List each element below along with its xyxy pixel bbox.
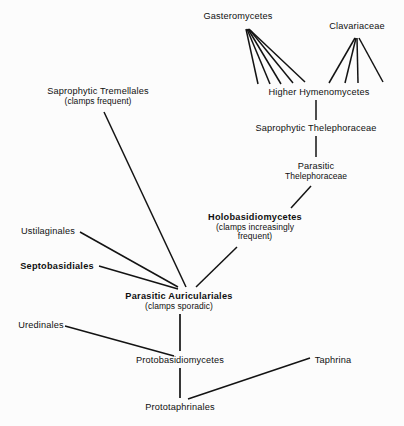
edge-clav-fan-2 [345,38,356,83]
node-label-saprophytic-thelephoraceae: Saprophytic Thelephoraceae [255,123,376,133]
node-label-parasitic-thelephoraceae: Parasitic [285,161,347,171]
node-holobasidiomycetes: Holobasidiomycetes(clamps increasinglyfr… [208,212,302,242]
node-taphrina: Taphrina [315,355,351,365]
node-parasitic-auriculariales: Parasitic Auriculariales(clamps sporadic… [125,291,232,311]
edge-gast-fan-2 [247,29,270,84]
edge-holo-to-auric [196,247,237,287]
node-label-taphrina: Taphrina [315,355,351,365]
phylogeny-diagram: GasteromycetesClavariaceaeHigher Hymenom… [0,0,404,426]
node-label-prototaphrinales: Prototaphrinales [145,402,214,412]
node-higher-hymenomycetes: Higher Hymenomycetes [268,87,369,97]
node-sublabel-parasitic-thelephoraceae: Thelephoraceae [285,172,347,182]
node-label-holobasidiomycetes: Holobasidiomycetes [208,212,302,222]
edge-holo-to-para-thele [291,186,311,208]
node-prototaphrinales: Prototaphrinales [145,402,214,412]
node-saprophytic-tremellales: Saprophytic Tremellales(clamps frequent) [47,86,149,106]
node-label-clavariaceae: Clavariaceae [329,21,384,31]
node-uredinales: Uredinales [18,320,63,330]
node-sublabel-parasitic-auriculariales: (clamps sporadic) [125,302,232,312]
node-clavariaceae: Clavariaceae [329,21,384,31]
edge-gast-fan-4 [249,29,293,83]
node-label-protobasidiomycetes: Protobasidiomycetes [136,355,224,365]
node-label-septobasidiales: Septobasidiales [20,261,94,271]
node-ustilaginales: Ustilaginales [21,226,75,236]
edge-gast-fan-5 [250,30,305,82]
node-protobasidiomycetes: Protobasidiomycetes [136,355,224,365]
node-label-uredinales: Uredinales [18,320,63,330]
edge-clav-fan-4 [359,38,383,82]
node-sublabel2-holobasidiomycetes: frequent) [208,232,302,242]
node-label-gasteromycetes: Gasteromycetes [204,11,273,21]
node-parasitic-thelephoraceae: ParasiticThelephoraceae [285,161,347,181]
node-sublabel-saprophytic-tremellales: (clamps frequent) [47,97,149,107]
node-label-higher-hymenomycetes: Higher Hymenomycetes [268,87,369,97]
node-saprophytic-thelephoraceae: Saprophytic Thelephoraceae [255,123,376,133]
edge-gast-fan-1 [246,29,258,84]
edge-clav-fan-1 [329,38,355,83]
node-gasteromycetes: Gasteromycetes [204,11,273,21]
node-septobasidiales: Septobasidiales [20,261,94,271]
edge-uredinales-to-proto [65,326,174,356]
edge-gast-fan-3 [248,29,281,84]
edge-ustilaginales-to-auric [80,232,178,287]
node-label-saprophytic-tremellales: Saprophytic Tremellales [47,86,149,96]
node-label-ustilaginales: Ustilaginales [21,226,75,236]
node-label-parasitic-auriculariales: Parasitic Auriculariales [125,291,232,301]
edge-septobasidiales-to-auric [99,266,178,289]
edge-clav-fan-3 [357,38,358,83]
edge-tremellales-to-auric [104,112,186,287]
